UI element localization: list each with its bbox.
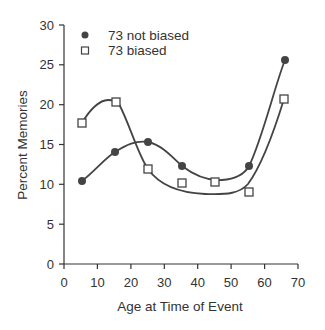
open-square-icon <box>112 98 120 106</box>
x-tick-70: 70 <box>291 275 305 290</box>
x-tick-20: 20 <box>124 275 138 290</box>
y-tick-25: 25 <box>40 57 54 72</box>
y-tick-0: 0 <box>47 257 54 272</box>
y-axis <box>59 25 64 264</box>
y-tick-30: 30 <box>40 18 54 33</box>
y-tick-20: 20 <box>40 97 54 112</box>
y-tick-5: 5 <box>47 217 54 232</box>
y-tick-labels: 0 5 10 15 20 25 30 <box>40 18 54 272</box>
x-tick-50: 50 <box>224 275 238 290</box>
x-tick-60: 60 <box>257 275 271 290</box>
filled-circle-icon <box>178 162 186 170</box>
x-axis-title: Age at Time of Event <box>117 299 243 314</box>
y-tick-10: 10 <box>40 177 54 192</box>
open-square-icon <box>211 178 219 186</box>
not-biased-markers <box>78 56 289 185</box>
legend-item-biased: 73 biased <box>82 43 167 58</box>
legend: 73 not biased 73 biased <box>82 28 190 58</box>
x-tick-labels: 0 10 20 30 40 50 60 70 <box>60 275 305 290</box>
x-tick-30: 30 <box>157 275 171 290</box>
open-square-icon <box>178 179 186 187</box>
open-square-icon <box>280 95 288 103</box>
legend-label: 73 biased <box>108 43 167 58</box>
open-square-icon <box>78 119 86 127</box>
legend-label: 73 not biased <box>108 28 189 43</box>
filled-circle-icon <box>111 148 119 156</box>
chart: 0 5 10 15 20 25 30 0 10 20 30 40 50 60 7… <box>0 0 325 330</box>
filled-circle-icon <box>82 32 89 39</box>
legend-item-not-biased: 73 not biased <box>82 28 190 43</box>
filled-circle-icon <box>281 56 289 64</box>
open-square-icon <box>82 47 89 54</box>
x-tick-0: 0 <box>60 275 67 290</box>
x-tick-40: 40 <box>190 275 204 290</box>
x-tick-10: 10 <box>90 275 104 290</box>
open-square-icon <box>144 165 152 173</box>
filled-circle-icon <box>78 177 86 185</box>
y-axis-title: Percent Memories <box>15 90 30 200</box>
filled-circle-icon <box>245 162 253 170</box>
open-square-icon <box>245 188 253 196</box>
y-tick-15: 15 <box>40 137 54 152</box>
filled-circle-icon <box>144 138 152 146</box>
x-axis <box>64 264 298 269</box>
